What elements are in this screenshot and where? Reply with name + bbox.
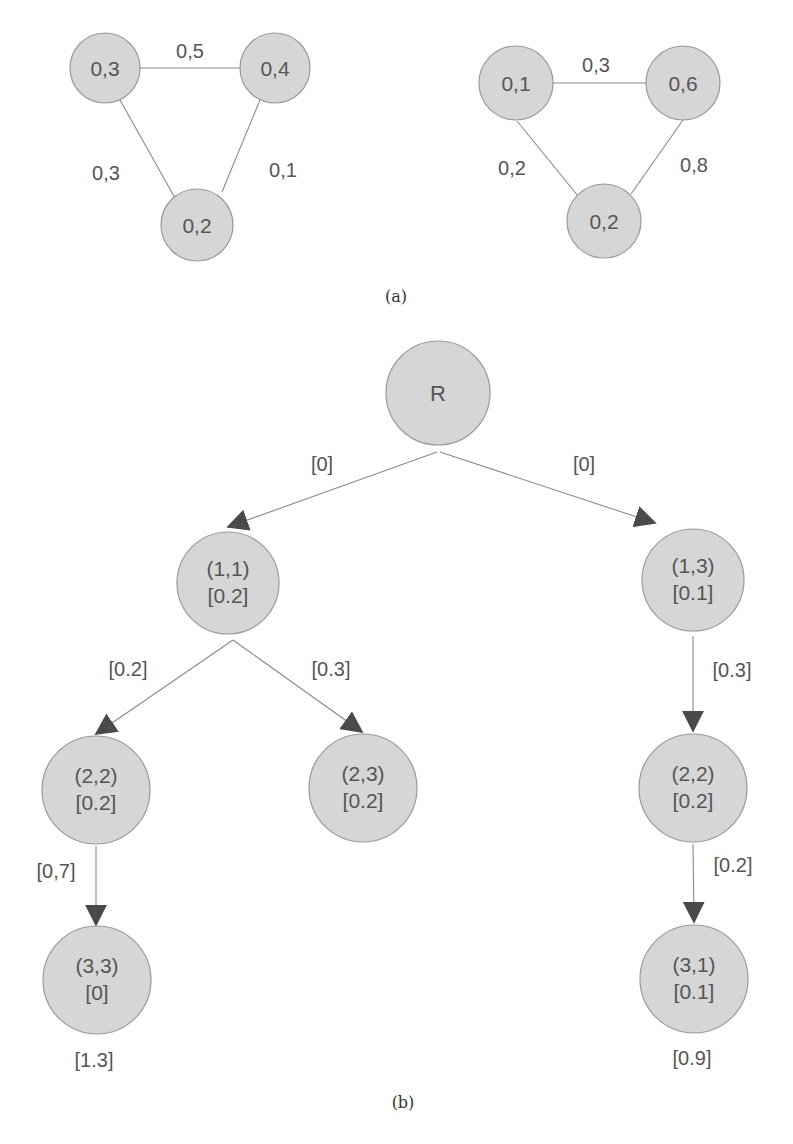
edge-R-to-13 (440, 452, 655, 523)
tree-node-leaf: (3,1) [0.1] [0.9] (640, 925, 748, 1069)
node-cost: [0.2] (76, 791, 117, 814)
graph-node: 0,2 (567, 184, 641, 258)
edge-label: 0,3 (582, 54, 610, 76)
graph-node: 0,6 (646, 46, 720, 120)
node-cost: [0.2] (673, 789, 714, 812)
edge-a-right-left (517, 121, 578, 196)
edge-label: 0,5 (176, 40, 204, 62)
tree-node: (2,2) [0.2] (639, 734, 747, 842)
node-label: (1,3) (671, 554, 714, 577)
edge-a-left-left (120, 100, 175, 198)
node-cost: [0.1] (674, 980, 715, 1003)
tree-node-root: R (386, 341, 490, 445)
path-total: [1.3] (75, 1049, 114, 1071)
node-cost: [0.1] (673, 581, 714, 604)
node-label: 0,2 (589, 210, 618, 233)
edge-label: 0,1 (269, 159, 297, 181)
diagram-canvas: 0,5 0,3 0,1 0,3 0,4 0,2 0,3 0,2 0,8 (0, 0, 793, 1144)
node-label: (3,3) (75, 954, 118, 977)
edge-label: [0] (573, 453, 595, 475)
node-cost: [0.2] (208, 584, 249, 607)
node-label: R (430, 381, 446, 406)
node-label: 0,3 (90, 57, 119, 80)
tree-node: (2,2) [0.2] (42, 736, 150, 844)
node-cost: [0.2] (343, 789, 384, 812)
node-label: 0,4 (260, 57, 290, 80)
node-label: (2,2) (74, 764, 117, 787)
tree-node-leaf: (3,3) [0] [1.3] (43, 926, 151, 1071)
node-label: 0,6 (668, 72, 697, 95)
node-label: (2,3) (341, 762, 384, 785)
node-cost: [0] (85, 981, 108, 1004)
graph-a-left: 0,5 0,3 0,1 0,3 0,4 0,2 (70, 33, 310, 261)
tree-node: (1,1) [0.2] (177, 532, 279, 634)
node-label: 0,1 (501, 72, 530, 95)
graph-node: 0,3 (70, 33, 140, 103)
edge-22R-to-31 (693, 844, 694, 922)
path-total: [0.9] (673, 1047, 712, 1069)
tree-node: (2,3) [0.2] (309, 734, 417, 842)
graph-node: 0,1 (479, 46, 553, 120)
node-label: (3,1) (672, 953, 715, 976)
edge-11-to-22L (96, 640, 233, 734)
edge-a-right-right (631, 120, 683, 194)
edge-label: [0] (311, 453, 333, 475)
figure-a: 0,5 0,3 0,1 0,3 0,4 0,2 0,3 0,2 0,8 (70, 33, 720, 306)
graph-node: 0,4 (240, 33, 310, 103)
edge-label: [0.3] (713, 659, 752, 681)
edge-label: 0,2 (498, 157, 526, 179)
edge-label: 0,3 (92, 162, 120, 184)
tree-node: (1,3) [0.1] (642, 529, 744, 631)
edge-label: [0.2] (714, 854, 753, 876)
edge-11-to-23 (233, 640, 362, 732)
edge-label: [0.3] (312, 658, 351, 680)
node-label: (1,1) (206, 557, 249, 580)
edge-label: [0,7] (37, 860, 76, 882)
edge-a-left-right (222, 100, 260, 192)
node-label: 0,2 (182, 214, 211, 237)
edge-label: 0,8 (680, 154, 708, 176)
graph-node: 0,2 (161, 189, 233, 261)
caption-a: (a) (385, 287, 407, 306)
node-label: (2,2) (671, 762, 714, 785)
edge-label: [0.2] (109, 658, 148, 680)
graph-a-right: 0,3 0,2 0,8 0,1 0,6 0,2 (479, 46, 720, 258)
figure-b: [0] [0] [0.2] [0.3] [0,7] [0.3] [0.2] R … (37, 341, 753, 1112)
caption-b: (b) (392, 1093, 415, 1112)
